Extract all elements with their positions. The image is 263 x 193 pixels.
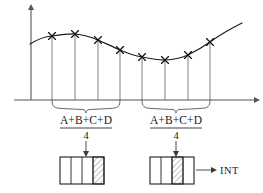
left-group-brace (52, 100, 120, 113)
left-formula-denominator: 4 (83, 130, 89, 141)
right-register (150, 157, 194, 184)
left-register-highlighted-cell (93, 157, 104, 184)
sample-markers-group (49, 31, 214, 64)
int-output-label: INT (220, 165, 239, 176)
axes-group (14, 4, 260, 103)
right-sample-group: A+B+C+D 4 (142, 100, 210, 184)
right-group-brace (142, 100, 210, 113)
y-axis-arrowhead (28, 4, 34, 10)
int-output: INT (196, 165, 239, 176)
left-sample-group: A+B+C+D 4 (52, 100, 120, 184)
left-result-arrowhead (83, 151, 89, 157)
right-formula-numerator: A+B+C+D (150, 114, 202, 126)
right-formula-denominator: 4 (173, 130, 179, 141)
right-register-highlighted-cell (172, 157, 183, 184)
int-output-arrowhead (211, 167, 217, 173)
left-register (60, 157, 104, 184)
sample-stems-group (52, 34, 210, 100)
diagram-canvas: A+B+C+D 4 A+B+C+D 4 (0, 0, 263, 193)
figure-root: A+B+C+D 4 A+B+C+D 4 (0, 0, 263, 193)
left-formula-numerator: A+B+C+D (60, 114, 112, 126)
x-axis-arrowhead (254, 97, 260, 103)
right-result-arrowhead (173, 151, 179, 157)
